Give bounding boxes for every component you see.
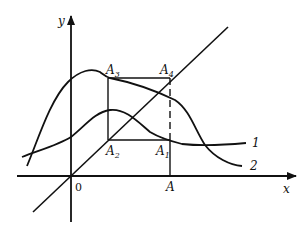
a4-sub: 4 [168, 70, 174, 79]
bisector-line [33, 27, 228, 212]
a3-name: A [105, 63, 115, 77]
y-axis-label: y [57, 14, 65, 28]
x-axis-label: x [283, 182, 290, 196]
a2-name: A [105, 144, 115, 158]
origin-label: 0 [75, 181, 82, 194]
point-label-a1: A1 [155, 144, 170, 160]
a1-name: A [155, 144, 165, 158]
point-label-a4: A4 [159, 63, 174, 79]
curve-2-label: 2 [249, 159, 258, 173]
diagram-canvas: y x 0 A A3 A4 A2 A1 1 2 [0, 0, 308, 231]
point-label-a3: A3 [105, 63, 120, 79]
a3-sub: 3 [115, 70, 120, 79]
point-label-a2: A2 [105, 144, 120, 160]
a2-sub: 2 [114, 151, 120, 160]
a4-name: A [159, 63, 169, 77]
x-tick-label-a: A [165, 180, 175, 194]
a1-sub: 1 [165, 151, 170, 160]
curve-1-label: 1 [252, 136, 260, 150]
